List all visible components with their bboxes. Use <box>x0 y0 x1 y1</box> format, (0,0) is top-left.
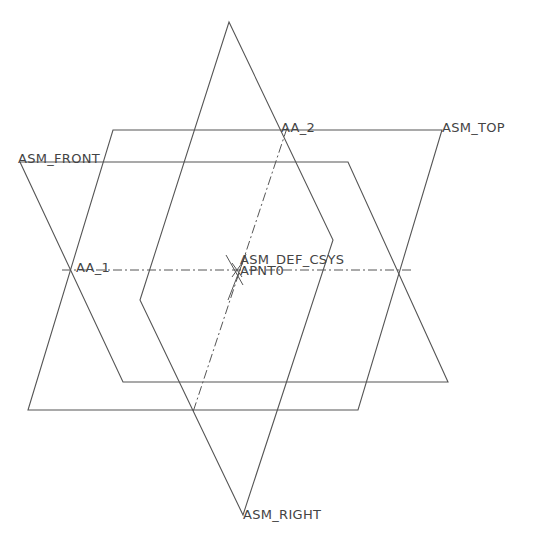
label-aa-2[interactable]: AA_2 <box>281 121 315 134</box>
label-asm-right[interactable]: ASM_RIGHT <box>243 508 321 521</box>
label-apnt0[interactable]: APNT0 <box>240 264 284 277</box>
label-asm-top[interactable]: ASM_TOP <box>442 121 505 134</box>
label-asm-front[interactable]: ASM_FRONT <box>18 152 100 165</box>
label-aa-1[interactable]: AA_1 <box>76 261 110 274</box>
